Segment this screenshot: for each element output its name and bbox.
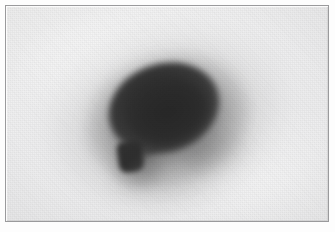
scan-plate (5, 5, 329, 222)
appendage (115, 139, 144, 173)
figure-root (0, 0, 335, 232)
